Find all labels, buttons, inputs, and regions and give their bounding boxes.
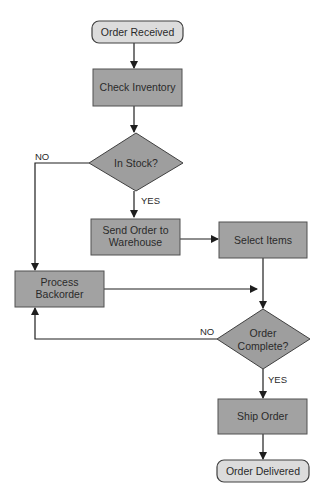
node-in-stock: In Stock? (89, 133, 183, 191)
node-send-order-to-warehouse: Send Order to Warehouse (91, 219, 180, 255)
node-label: Ship Order (237, 410, 288, 422)
node-label: Order Delivered (226, 465, 300, 477)
node-check-inventory: Check Inventory (93, 69, 182, 106)
edge-label-complete-no: NO (200, 326, 214, 337)
node-label: Check Inventory (100, 81, 177, 93)
flowchart-canvas: Order Received Check Inventory In Stock?… (0, 0, 328, 499)
node-label-line2: Warehouse (109, 236, 162, 248)
node-label-line1: Process (41, 276, 79, 288)
node-label-line2: Backorder (36, 288, 84, 300)
node-label: In Stock? (114, 157, 158, 169)
node-select-items: Select Items (219, 222, 307, 258)
node-ship-order: Ship Order (218, 399, 307, 434)
decision-shape (217, 309, 310, 369)
node-label-line1: Order (250, 327, 277, 339)
edge-label-complete-yes: YES (268, 374, 287, 385)
edge-label-instock-yes: YES (141, 195, 160, 206)
edge-instock-no (35, 163, 89, 270)
edge-complete-no (35, 308, 217, 339)
node-label: Select Items (234, 234, 292, 246)
node-order-complete: Order Complete? (217, 309, 310, 369)
edge-label-instock-no: NO (35, 151, 49, 162)
node-label-line1: Send Order to (103, 224, 169, 236)
node-process-backorder: Process Backorder (15, 271, 104, 307)
node-order-received: Order Received (92, 21, 183, 43)
node-order-delivered: Order Delivered (217, 460, 309, 482)
node-label-line2: Complete? (238, 340, 289, 352)
node-label: Order Received (101, 26, 175, 38)
